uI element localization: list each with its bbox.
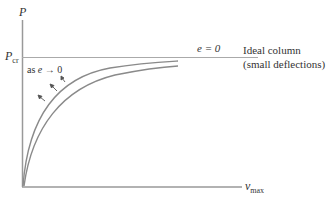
- trend-label-prefix: as: [27, 64, 38, 75]
- ideal-column-label: Ideal column (small deflections): [243, 43, 325, 71]
- load-deflection-diagram: [0, 0, 334, 202]
- x-axis-label-sub: max: [250, 186, 264, 195]
- ideal-column-line2: (small deflections): [243, 57, 325, 71]
- arrow-icon: [38, 76, 65, 101]
- pcr-label-sub: cr: [12, 56, 18, 65]
- trend-label: as e → 0: [27, 65, 62, 75]
- curve-large-e: [24, 66, 178, 186]
- pcr-label: Pcr: [5, 50, 19, 62]
- ideal-column-line1: Ideal column: [243, 43, 325, 57]
- y-axis-label: P: [19, 6, 26, 18]
- x-axis-label: vmax: [245, 180, 264, 192]
- e-zero-label: e = 0: [197, 43, 220, 54]
- trend-label-suffix: → 0: [42, 64, 62, 75]
